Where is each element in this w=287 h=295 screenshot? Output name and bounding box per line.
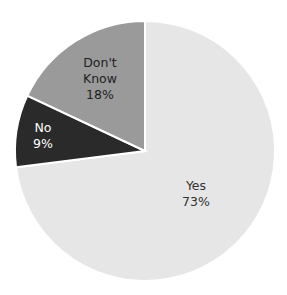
slice-label-yes: Yes 73% <box>182 178 210 210</box>
slice-label-yes-name: Yes <box>182 178 210 194</box>
slice-label-yes-value: 73% <box>182 194 210 210</box>
slice-label-no-name: No <box>33 120 53 136</box>
slice-label-dont-know-name-1: Don't <box>83 55 117 71</box>
pie-chart: Yes 73% No 9% Don't Know 18% <box>0 0 287 295</box>
slice-label-dont-know-value: 18% <box>83 87 117 103</box>
slice-label-dont-know: Don't Know 18% <box>83 55 117 103</box>
slice-label-dont-know-name-2: Know <box>83 71 117 87</box>
slice-label-no-value: 9% <box>33 136 53 152</box>
slice-label-no: No 9% <box>33 120 53 152</box>
